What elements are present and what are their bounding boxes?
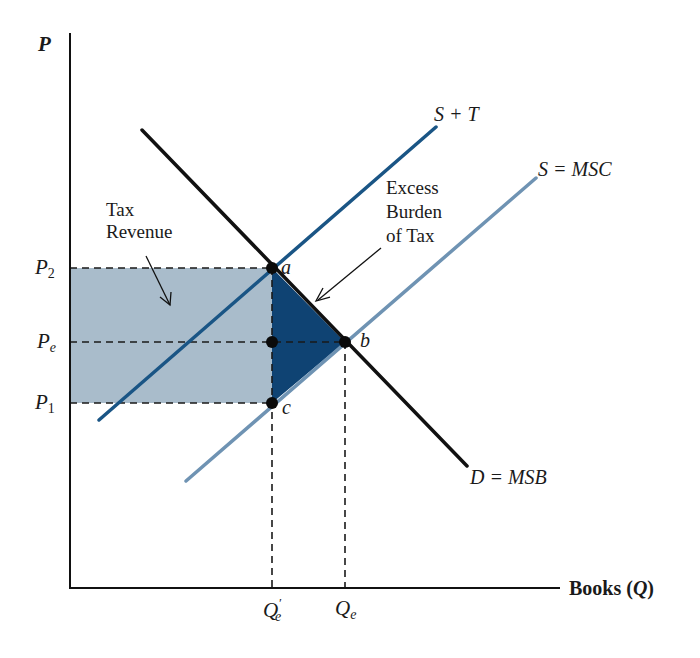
label-supply-msc: S = MSC	[538, 159, 612, 179]
x-axis-label-close: )	[647, 577, 654, 599]
tax-revenue-area	[70, 268, 272, 403]
x-axis-label-var: Q	[633, 577, 647, 599]
x-axis-label-text: Books (	[569, 577, 633, 599]
excess-burden-arrow	[318, 248, 381, 300]
tick-p2: P2	[35, 257, 55, 281]
label-point-a: a	[281, 257, 291, 277]
point-b	[339, 336, 351, 348]
excess-burden-arrowhead	[316, 288, 330, 301]
excess-burden-area	[272, 268, 345, 403]
label-supply-plus-tax: S + T	[434, 104, 479, 124]
diagram-canvas	[0, 0, 700, 658]
label-point-b: b	[360, 330, 370, 350]
label-point-c: c	[282, 397, 291, 417]
tick-pe: Pe	[37, 331, 56, 355]
x-axis-label: Books (Q)	[569, 578, 654, 598]
tax-revenue-annotation: Tax Revenue	[106, 199, 172, 243]
excess-burden-annotation: Excess Burden of Tax	[386, 176, 442, 248]
point-pe-qe-prime	[266, 336, 278, 348]
tick-qe-prime: Q′e	[263, 598, 281, 624]
tick-p1: P1	[35, 392, 55, 416]
tick-qe: Qe	[335, 598, 356, 622]
point-a	[266, 262, 278, 274]
label-demand-msb: D = MSB	[470, 467, 547, 487]
y-axis-label: P	[38, 34, 51, 55]
point-c	[266, 397, 278, 409]
